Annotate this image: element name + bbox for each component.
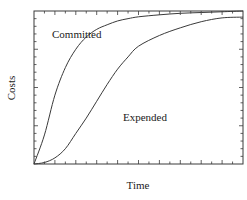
cost-curve-chart: Committed Expended Time Costs <box>0 0 247 200</box>
committed-label: Committed <box>52 28 102 40</box>
expended-label: Expended <box>123 111 167 123</box>
y-axis-label: Costs <box>5 76 17 100</box>
x-axis-label: Time <box>127 179 150 191</box>
